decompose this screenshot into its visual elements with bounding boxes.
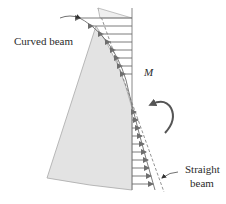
curved-beam-label: Curved beam: [14, 35, 73, 47]
beam-section: [47, 26, 132, 190]
straight-beam-label-line1: Straight: [185, 163, 220, 175]
straight-beam-leader: [162, 172, 178, 178]
straight-beam-label-line2: beam: [190, 177, 214, 189]
moment-arrow: [152, 102, 173, 133]
top-stress-wedge: [98, 8, 132, 18]
moment-label: M: [144, 66, 153, 78]
